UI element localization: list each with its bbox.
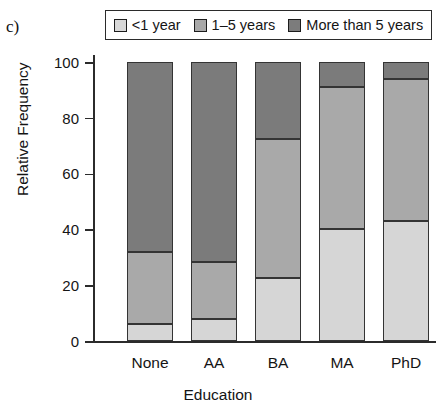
bar-segment-phd-1-to-5-years[interactable] bbox=[383, 79, 429, 221]
bar-segment-aa-more-than-5-years[interactable] bbox=[191, 62, 237, 262]
x-tick-label-aa: AA bbox=[191, 354, 237, 372]
legend-label-1-to-5-years: 1–5 years bbox=[212, 18, 276, 33]
bar-segment-none-1-to-5-years[interactable] bbox=[127, 252, 173, 325]
x-tick-label-ba: BA bbox=[255, 354, 301, 372]
bar-stack-phd bbox=[383, 62, 429, 341]
bar-segment-aa-less-than-1-year[interactable] bbox=[191, 319, 237, 341]
legend-label-less-than-1-year: <1 year bbox=[132, 18, 181, 33]
bar-segment-ma-1-to-5-years[interactable] bbox=[319, 87, 365, 229]
bar-segment-ba-1-to-5-years[interactable] bbox=[255, 139, 301, 279]
y-tick-label-60: 60 bbox=[62, 166, 79, 183]
x-axis-line bbox=[93, 341, 436, 343]
y-tick-label-20: 20 bbox=[62, 277, 79, 294]
medium-gray-swatch-icon bbox=[194, 19, 207, 32]
y-tick-20: 20 bbox=[85, 285, 94, 287]
bar-stack-ba bbox=[255, 62, 301, 341]
bar-group-ba[interactable]: BA bbox=[255, 62, 301, 341]
bar-group-ma[interactable]: MA bbox=[319, 62, 365, 341]
light-gray-swatch-icon bbox=[114, 19, 127, 32]
dark-gray-swatch-icon bbox=[288, 19, 301, 32]
bar-segment-phd-more-than-5-years[interactable] bbox=[383, 62, 429, 79]
y-tick-label-0: 0 bbox=[71, 333, 79, 350]
legend-item-less-than-1-year: <1 year bbox=[114, 18, 181, 33]
x-tick-label-none: None bbox=[127, 354, 173, 372]
bar-segment-none-more-than-5-years[interactable] bbox=[127, 62, 173, 252]
panel-letter: c) bbox=[6, 17, 19, 37]
bar-segment-aa-1-to-5-years[interactable] bbox=[191, 262, 237, 319]
legend-label-more-than-5-years: More than 5 years bbox=[306, 18, 423, 33]
bar-stack-aa bbox=[191, 62, 237, 341]
y-tick-label-100: 100 bbox=[54, 54, 79, 71]
y-tick-100: 100 bbox=[85, 62, 94, 64]
y-tick-80: 80 bbox=[85, 118, 94, 120]
legend-item-more-than-5-years: More than 5 years bbox=[288, 18, 423, 33]
bar-segment-ba-more-than-5-years[interactable] bbox=[255, 62, 301, 139]
y-tick-label-80: 80 bbox=[62, 110, 79, 127]
bar-group-aa[interactable]: AA bbox=[191, 62, 237, 341]
bar-segment-phd-less-than-1-year[interactable] bbox=[383, 221, 429, 341]
bar-stack-ma bbox=[319, 62, 365, 341]
bar-group-phd[interactable]: PhD bbox=[383, 62, 429, 341]
bar-segment-ma-more-than-5-years[interactable] bbox=[319, 62, 365, 87]
bar-segment-ma-less-than-1-year[interactable] bbox=[319, 229, 365, 341]
x-tick-label-ma: MA bbox=[319, 354, 365, 372]
y-axis-line bbox=[93, 55, 95, 343]
x-axis-title: Education bbox=[0, 386, 436, 404]
bar-segment-none-less-than-1-year[interactable] bbox=[127, 324, 173, 341]
bar-segment-ba-less-than-1-year[interactable] bbox=[255, 278, 301, 341]
y-tick-0: 0 bbox=[85, 341, 94, 343]
bar-group-none[interactable]: None bbox=[127, 62, 173, 341]
y-tick-60: 60 bbox=[85, 174, 94, 176]
legend-item-1-to-5-years: 1–5 years bbox=[194, 18, 276, 33]
x-tick-label-phd: PhD bbox=[383, 354, 429, 372]
figure-stacked-bar-chart: c) <1 year 1–5 years More than 5 years R… bbox=[0, 0, 436, 417]
y-axis-title: Relative Frequency bbox=[14, 62, 32, 196]
y-tick-40: 40 bbox=[85, 229, 94, 231]
bar-stack-none bbox=[127, 62, 173, 341]
y-tick-label-40: 40 bbox=[62, 221, 79, 238]
plot-area: 0 20 40 60 80 100 None bbox=[93, 55, 436, 347]
chart-legend: <1 year 1–5 years More than 5 years bbox=[105, 10, 432, 40]
